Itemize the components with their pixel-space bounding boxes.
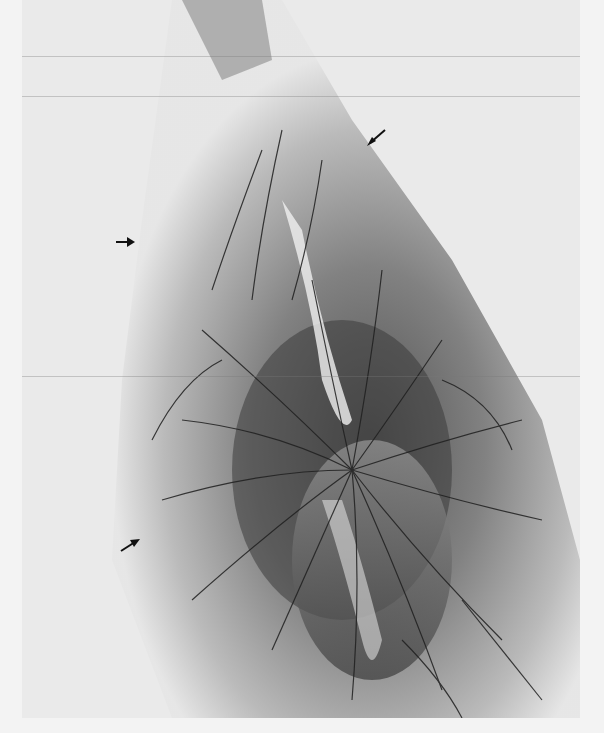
clinical-photograph [22, 0, 580, 718]
arrow-left-middle-icon [115, 236, 137, 248]
arrow-top-right-icon [365, 128, 387, 148]
arrow-left-lower-icon [120, 537, 142, 553]
lesion-image [22, 0, 580, 718]
scan-line [22, 56, 580, 57]
scan-line [22, 96, 580, 97]
figure-caption-clipped [40, 722, 580, 733]
scan-line [22, 376, 580, 377]
